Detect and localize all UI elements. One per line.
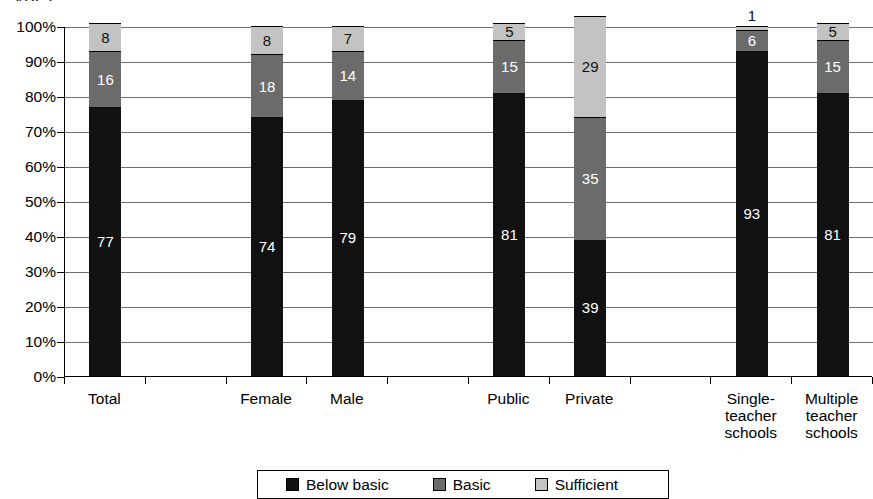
x-axis-category-label-line: schools: [791, 424, 872, 441]
bar-value-label: 14: [339, 68, 356, 83]
bar-value-label: 8: [101, 30, 109, 45]
bar-segment[interactable]: 81: [493, 93, 525, 377]
bar-segment[interactable]: 18: [251, 54, 283, 117]
x-axis-category-label-line: Multiple: [791, 390, 872, 407]
bar-value-label: 5: [505, 24, 513, 39]
bar-segment[interactable]: 39: [574, 240, 606, 377]
x-axis-tick-mark: [549, 377, 550, 384]
legend-item-basic[interactable]: Basic: [433, 476, 491, 494]
x-axis-tick-mark: [791, 377, 792, 384]
x-axis-tick-mark: [468, 377, 469, 384]
x-axis-category-label-line: schools: [710, 424, 791, 441]
legend-swatch-icon: [286, 478, 299, 491]
y-axis-tick-label: 70%: [0, 124, 56, 140]
bar-private[interactable]: 393529: [574, 26, 606, 376]
y-axis-tick-label: 80%: [0, 89, 56, 105]
bar-segment[interactable]: 7: [332, 26, 364, 51]
bar-segment[interactable]: 15: [493, 40, 525, 93]
x-axis-category-label: Multipleteacherschools: [791, 390, 872, 441]
x-axis-category-label-line: Total: [64, 390, 145, 407]
y-axis-tick-label: 40%: [0, 229, 56, 245]
x-axis-category-label: Total: [64, 390, 145, 407]
bar-segment[interactable]: 14: [332, 51, 364, 100]
bar-multiple-teacher-schools[interactable]: 81155: [817, 26, 849, 376]
x-axis-tick-mark: [306, 377, 307, 384]
legend-item-below-basic[interactable]: Below basic: [286, 476, 389, 494]
y-axis-tick-label: 30%: [0, 264, 56, 280]
x-axis-category-label: Female: [226, 390, 307, 407]
bar-segment[interactable]: 29: [574, 16, 606, 118]
bar-segment[interactable]: 15: [817, 40, 849, 93]
bar-segment[interactable]: 81: [817, 93, 849, 377]
bar-value-label: 39: [582, 300, 599, 315]
x-axis-tick-mark: [145, 377, 146, 384]
plot-area: 77168741887914781155393529936181155: [64, 27, 872, 377]
x-axis-tick-mark: [387, 377, 388, 384]
x-axis-tick-mark: [710, 377, 711, 384]
x-axis-tick-mark: [226, 377, 227, 384]
bar-segment[interactable]: 77: [89, 107, 121, 377]
y-axis-tick-label: 60%: [0, 159, 56, 175]
bar-value-label: 6: [748, 33, 756, 48]
y-axis-tick-label: 100%: [0, 19, 56, 35]
x-axis-category-label: Male: [306, 390, 387, 407]
x-axis-category-label-line: Male: [306, 390, 387, 407]
bar-segment[interactable]: 5: [493, 23, 525, 41]
legend-label: Basic: [453, 476, 491, 494]
bar-segment[interactable]: 16: [89, 51, 121, 107]
y-axis-tick-label: 50%: [0, 194, 56, 210]
bar-value-label: 81: [824, 227, 841, 242]
bar-single-teacher-schools[interactable]: 9361: [736, 26, 768, 376]
x-axis-category-label-line: Single-: [710, 390, 791, 407]
bar-value-label: 5: [828, 24, 836, 39]
x-axis-tick-mark: [630, 377, 631, 384]
x-axis-category-label-line: Female: [226, 390, 307, 407]
bar-value-label: 35: [582, 171, 599, 186]
bar-value-label: 29: [582, 59, 599, 74]
x-axis-category-label: Single-teacherschools: [710, 390, 791, 441]
bar-segment[interactable]: [736, 26, 768, 30]
chart-legend: Below basicBasicSufficient: [257, 470, 669, 499]
bar-value-label: 81: [501, 227, 518, 242]
x-axis-category-label-line: Private: [549, 390, 630, 407]
bar-segment[interactable]: 6: [736, 30, 768, 51]
bar-value-label: 74: [259, 239, 276, 254]
bar-female[interactable]: 74188: [251, 26, 283, 376]
bar-value-label: 7: [344, 31, 352, 46]
bar-segment[interactable]: 8: [251, 26, 283, 54]
x-axis-category-label-line: teacher: [791, 407, 872, 424]
bar-segment[interactable]: 8: [89, 23, 121, 51]
legend-label: Sufficient: [555, 476, 618, 494]
bar-segment[interactable]: 35: [574, 117, 606, 240]
legend-swatch-icon: [433, 478, 446, 491]
bar-segment[interactable]: 74: [251, 117, 283, 376]
bar-value-label: 77: [97, 234, 114, 249]
bar-segment[interactable]: 5: [817, 23, 849, 41]
x-axis-category-label: Private: [549, 390, 630, 407]
y-axis-tick-label: 20%: [0, 299, 56, 315]
bar-value-label: 15: [824, 59, 841, 74]
bar-total[interactable]: 77168: [89, 26, 121, 376]
x-axis-category-label-line: Public: [468, 390, 549, 407]
bar-value-label: 8: [263, 33, 271, 48]
x-axis-category-label: Public: [468, 390, 549, 407]
y-axis-tick-label: 10%: [0, 334, 56, 350]
bar-public[interactable]: 81155: [493, 26, 525, 376]
legend-label: Below basic: [306, 476, 389, 494]
bar-value-label: 93: [743, 206, 760, 221]
legend-item-sufficient[interactable]: Sufficient: [535, 476, 618, 494]
y-axis-tick-label: 90%: [0, 54, 56, 70]
bar-value-label: 1: [736, 7, 768, 24]
y-axis-tick-label: 0%: [0, 369, 56, 385]
bar-segment[interactable]: 93: [736, 51, 768, 377]
stacked-bar-chart: 100%90%80%70%60%50%40%30%20%10%0% 771687…: [0, 0, 872, 460]
bar-value-label: 18: [259, 79, 276, 94]
bar-segment[interactable]: 79: [332, 100, 364, 377]
bar-value-label: 79: [339, 230, 356, 245]
x-axis-tick-mark: [64, 377, 65, 384]
legend-swatch-icon: [535, 478, 548, 491]
bar-value-label: 15: [501, 59, 518, 74]
bar-value-label: 16: [97, 72, 114, 87]
bar-male[interactable]: 79147: [332, 26, 364, 376]
x-axis-category-label-line: teacher: [710, 407, 791, 424]
